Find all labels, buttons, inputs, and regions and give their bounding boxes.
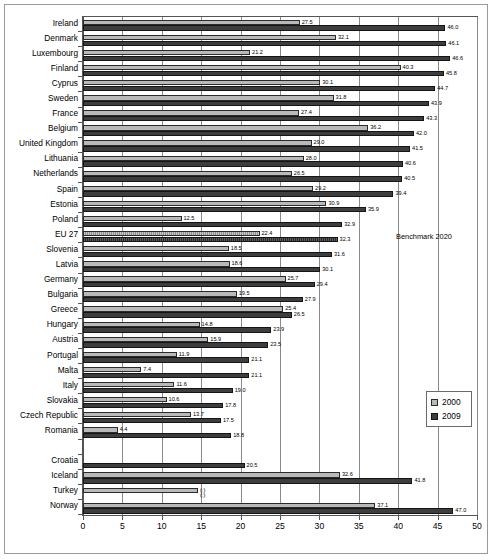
xtick-label-5: 5 — [120, 521, 125, 531]
bar-2009-0 — [83, 25, 445, 30]
value-label-2009-15: 31.6 — [334, 251, 345, 257]
bar-2009-23 — [83, 373, 249, 378]
xtick-label-0: 0 — [81, 521, 86, 531]
value-label-2000-10: 26.5 — [294, 170, 305, 176]
value-label-2009-26: 17.5 — [223, 417, 234, 423]
category-label-ireland: Ireland — [53, 19, 78, 28]
value-label-2000-18: 19.5 — [239, 290, 250, 296]
value-label-2000-5: 31.8 — [336, 94, 347, 100]
category-label-malta: Malta — [58, 366, 78, 375]
value-label-2009-1: 46.1 — [448, 40, 459, 46]
value-label-2000-4: 30.1 — [322, 79, 333, 85]
value-label-2009-9: 40.6 — [405, 160, 416, 166]
value-label-2000-9: 28.0 — [306, 155, 317, 161]
category-label-hungary: Hungary — [47, 320, 78, 329]
category-label-eu-27: EU 27 — [55, 230, 78, 239]
category-label-portugal: Portugal — [47, 351, 78, 360]
value-label-2000-2: 21.2 — [252, 49, 263, 55]
bar-2009-7 — [83, 131, 414, 136]
value-label-2000-22: 11.9 — [179, 351, 189, 357]
bar-2000-24 — [83, 382, 174, 387]
xtick-label-20: 20 — [236, 521, 246, 531]
category-label-iceland: Iceland — [51, 471, 78, 480]
bar-2009-25 — [83, 403, 223, 408]
xtick-label-25: 25 — [275, 521, 285, 531]
bar-2000-2 — [83, 50, 250, 55]
value-label-2000-6: 27.4 — [301, 109, 312, 115]
bar-2000-21 — [83, 337, 208, 342]
legend-label-2000: 2000 — [442, 397, 461, 407]
value-label-2000-7: 36.2 — [370, 124, 381, 130]
bar-2009-17 — [83, 282, 315, 287]
value-label-2009-14: 32.3 — [340, 236, 351, 242]
xtick-label-35: 35 — [354, 521, 364, 531]
bar-2009-24 — [83, 388, 233, 393]
category-label-spain: Spain — [57, 185, 78, 194]
category-label-belgium: Belgium — [48, 124, 78, 133]
value-label-2009-21: 23.5 — [270, 341, 281, 347]
xtick-label-40: 40 — [393, 521, 403, 531]
bar-2000-1 — [83, 35, 336, 40]
bar-2000-17 — [83, 276, 286, 281]
bar-2000-9 — [83, 156, 304, 161]
bar-2009-1 — [83, 41, 446, 46]
value-label-2009-10: 40.5 — [404, 175, 415, 181]
bar-2000-23 — [83, 367, 141, 372]
category-label-sweden: Sweden — [48, 94, 78, 103]
xtick-30 — [319, 516, 320, 520]
value-label-2009-2: 46.6 — [452, 55, 463, 61]
xtick-45 — [438, 516, 439, 520]
bar-2000-30 — [83, 472, 340, 477]
value-label-2009-27: 18.8 — [233, 432, 244, 438]
bar-2000-13 — [83, 216, 182, 221]
category-label-lithuania: Lithuania — [44, 154, 78, 163]
bar-2000-19 — [83, 306, 283, 311]
category-label-poland: Poland — [52, 215, 78, 224]
value-label-2009-16: 30.1 — [322, 266, 333, 272]
bar-2009-10 — [83, 176, 402, 181]
legend-swatch-2000-icon — [431, 399, 438, 406]
value-label-2009-17: 29.4 — [317, 281, 328, 287]
category-label-turkey: Turkey — [53, 486, 78, 495]
value-label-2009-22: 21.1 — [251, 356, 262, 362]
category-label-norway: Norway — [50, 501, 78, 510]
bar-2000-32 — [83, 503, 375, 508]
gridline-x-50 — [477, 17, 478, 515]
bar-2000-6 — [83, 110, 299, 115]
value-label-2000-27: 4.4 — [120, 426, 128, 432]
figure-image: IrelandDenmarkLuxembourgFinlandCyprusSwe… — [0, 0, 494, 560]
xtick-label-15: 15 — [196, 521, 206, 531]
bar-2000-25 — [83, 397, 167, 402]
bar-2009-12 — [83, 207, 366, 212]
value-label-2000-17: 25.7 — [288, 275, 299, 281]
bar-2009-19 — [83, 312, 292, 317]
bar-2000-16 — [83, 261, 230, 266]
value-label-2000-25: 10.6 — [169, 396, 180, 402]
bar-2009-27 — [83, 433, 231, 438]
bar-2009-6 — [83, 116, 424, 121]
category-label-denmark: Denmark — [44, 34, 78, 43]
value-label-2000-15: 18.5 — [231, 245, 242, 251]
value-label-2009-7: 42.0 — [416, 130, 427, 136]
category-label-united-kingdom: United Kingdom — [19, 139, 78, 148]
bar-2000-10 — [83, 171, 292, 176]
bar-2000-26 — [83, 412, 191, 417]
value-label-2000-23: 7.4 — [143, 366, 151, 372]
bar-2009-32 — [83, 508, 453, 513]
value-label-2000-30: 32.6 — [342, 471, 353, 477]
bar-2009-5 — [83, 101, 429, 106]
bar-2009-29 — [83, 463, 245, 468]
value-label-2009-24: 19.0 — [235, 387, 246, 393]
value-label-2009-23: 21.1 — [251, 372, 262, 378]
bar-2000-27 — [83, 427, 118, 432]
category-label-germany: Germany — [44, 275, 78, 284]
value-label-2009-19: 26.5 — [294, 311, 305, 317]
value-label-2000-14: 22.4 — [262, 230, 273, 236]
category-axis-labels: IrelandDenmarkLuxembourgFinlandCyprusSwe… — [5, 16, 82, 516]
value-label-2009-3: 45.8 — [446, 70, 457, 76]
category-label-greece: Greece — [51, 305, 78, 314]
category-label-luxembourg: Luxembourg — [32, 49, 78, 58]
value-label-2000-8: 29.0 — [314, 139, 325, 145]
value-label-2000-12: 30.9 — [328, 200, 339, 206]
value-label-2009-0: 46.0 — [447, 24, 458, 30]
